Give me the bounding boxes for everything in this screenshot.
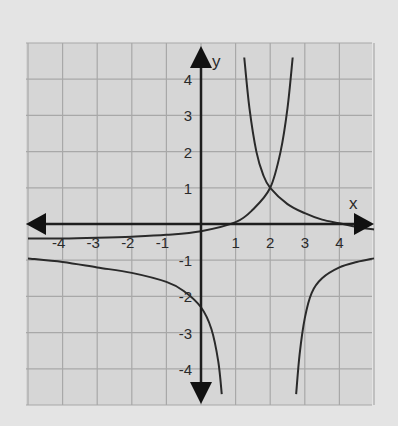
y-axis-label: y [212,52,221,71]
y-tick-label: 3 [184,107,192,124]
y-tick-label: -3 [179,325,192,342]
y-tick-label: 2 [184,144,192,161]
y-tick-label: 1 [184,180,192,197]
x-tick-label: 2 [266,234,274,251]
x-axis-label: x [349,194,358,213]
coordinate-plane: x y -4-3-2-112344321-1-2-3-4 [0,0,398,426]
y-tick-label: -1 [179,252,192,269]
y-tick-label: 4 [184,71,192,88]
graph-figure: x y -4-3-2-112344321-1-2-3-4 [0,0,398,426]
x-tick-label: -1 [156,234,169,251]
y-tick-label: -2 [179,288,192,305]
x-tick-label: 3 [301,234,309,251]
x-tick-label: 4 [335,234,343,251]
x-tick-label: -2 [121,234,134,251]
x-tick-label: 1 [231,234,239,251]
x-tick-label: -3 [87,234,100,251]
x-tick-label: -4 [52,234,65,251]
y-tick-label: -4 [179,361,192,378]
